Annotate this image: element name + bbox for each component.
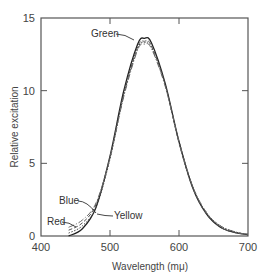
x-axis-label: Wavelength (mμ) [112, 261, 188, 272]
y-tick-label: 0 [29, 230, 35, 242]
y-axis-label: Relative excitation [9, 86, 20, 167]
blue-leader-line [78, 201, 96, 213]
x-tick-label: 500 [101, 241, 119, 253]
y-tick-label: 5 [29, 157, 35, 169]
yellow-leader-line [97, 214, 113, 216]
y-tick-label: 10 [23, 85, 35, 97]
blue-label: Blue [59, 195, 79, 206]
x-tick-label: 700 [239, 241, 257, 253]
red-label: Red [47, 216, 65, 227]
yellow-label: Yellow [114, 210, 143, 221]
chart-svg: 400500600700051015 GreenBlueYellowRed Wa… [0, 0, 267, 275]
x-tick-label: 600 [170, 241, 188, 253]
curves [69, 38, 248, 236]
y-tick-label: 15 [23, 12, 35, 24]
x-tick-label: 400 [32, 241, 50, 253]
blue-curve [69, 41, 248, 235]
green-label: Green [91, 28, 119, 39]
annotations: GreenBlueYellowRed [47, 28, 143, 227]
